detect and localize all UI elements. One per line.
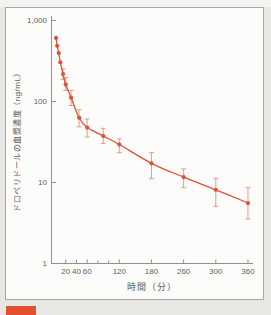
x-tick-label: 360 <box>241 267 255 276</box>
data-point-marker <box>101 134 105 138</box>
data-point-marker <box>55 44 59 48</box>
x-tick-label: 40 <box>72 267 81 276</box>
x-tick-label: 300 <box>209 267 223 276</box>
data-point-marker <box>69 96 73 100</box>
data-point-marker <box>117 142 121 146</box>
data-point-marker <box>57 51 61 55</box>
y-tick-label: 100 <box>34 97 48 106</box>
x-tick-label: 60 <box>83 267 92 276</box>
data-point-marker <box>54 36 58 40</box>
figure-page: 1,000100101204060120180260300360 ドロペリドール… <box>0 0 271 315</box>
y-tick-label: 1,000 <box>27 16 48 25</box>
data-point-marker <box>246 201 250 205</box>
x-tick-label: 120 <box>113 267 127 276</box>
figure-caption-tab <box>6 306 36 315</box>
data-point-marker <box>149 161 153 165</box>
data-point-marker <box>64 82 68 86</box>
y-axis-title: ドロペリドールの血漿濃度（ng/mL） <box>11 68 22 212</box>
x-axis-title: 時間（分） <box>127 280 177 293</box>
x-tick-label: 20 <box>61 267 70 276</box>
y-tick-label: 1 <box>43 259 48 268</box>
data-point-marker <box>85 125 89 129</box>
pk-concentration-chart: 1,000100101204060120180260300360 <box>0 0 271 315</box>
data-point-marker <box>77 116 81 120</box>
x-tick-label: 180 <box>145 267 159 276</box>
data-point-marker <box>214 188 218 192</box>
data-point-marker <box>58 60 62 64</box>
y-tick-label: 10 <box>38 178 47 187</box>
data-point-marker <box>61 72 65 76</box>
data-point-marker <box>182 175 186 179</box>
x-tick-label: 260 <box>177 267 191 276</box>
